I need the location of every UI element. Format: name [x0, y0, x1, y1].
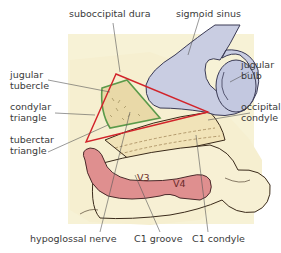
label-sigmoid-sinus: sigmoid sinus — [176, 8, 241, 19]
label-suboccipital-dura: suboccipital dura — [69, 8, 151, 19]
anatomy-illustration — [0, 0, 281, 253]
label-c1-groove: C1 groove — [134, 233, 183, 244]
label-occipital-condyle: occipitalcondyle — [241, 101, 281, 123]
label-condylar-triangle: condylartriangle — [10, 101, 51, 123]
label-v3: V3 — [137, 172, 150, 183]
label-hypoglossal-nerve: hypoglossal nerve — [30, 233, 117, 244]
label-c1-condyle: C1 condyle — [192, 233, 245, 244]
label-jugular-bulb: jugularbulb — [241, 59, 274, 81]
label-v4: V4 — [173, 178, 186, 189]
label-jugular-tubercle: jugulartubercle — [10, 69, 49, 91]
label-tuberctar-triangle: tuberctartriangle — [10, 134, 54, 156]
